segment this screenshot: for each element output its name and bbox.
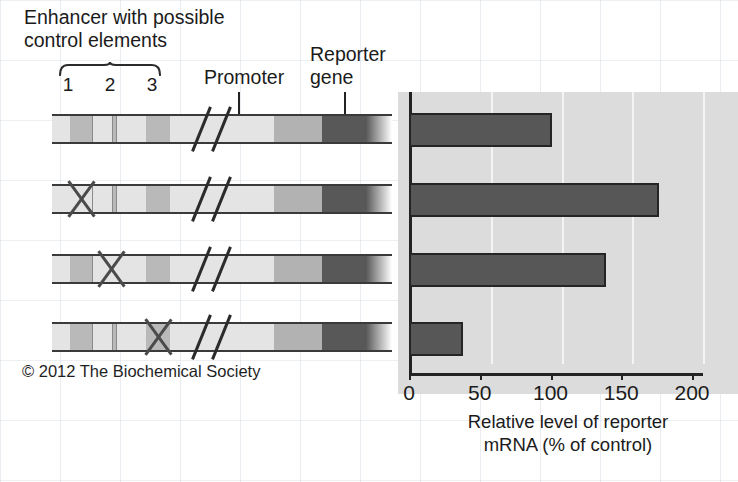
dna-spacer-upstream bbox=[242, 256, 274, 282]
element-separator bbox=[116, 186, 117, 212]
control-element-3-box bbox=[146, 256, 170, 282]
reporter-gene-box bbox=[322, 116, 392, 142]
gridline-100 bbox=[562, 92, 564, 364]
promoter-label: Promoter bbox=[204, 66, 284, 89]
dna-spacer-upstream bbox=[242, 324, 274, 350]
control-element-3-box bbox=[146, 116, 170, 142]
bar-2 bbox=[409, 253, 606, 287]
enhancer-title-label: Enhancer with possible control elements bbox=[24, 6, 225, 52]
control-element-numbers: 1 2 3 bbox=[58, 74, 162, 96]
dna-spacer bbox=[92, 324, 112, 350]
construct-row-intact-control bbox=[52, 114, 392, 144]
x-tick-label-200: 200 bbox=[674, 381, 709, 405]
reporter-gene-label: Reporter gene bbox=[310, 43, 386, 89]
promoter-box bbox=[274, 186, 322, 212]
control-element-1-box bbox=[70, 116, 92, 142]
deletion-x-icon bbox=[94, 247, 128, 291]
reporter-gene-box bbox=[322, 186, 392, 212]
bar-0 bbox=[409, 113, 552, 147]
control-element-3-box bbox=[146, 186, 170, 212]
gridline-200 bbox=[703, 92, 705, 364]
control-element-1-box bbox=[70, 324, 92, 350]
x-tick-150 bbox=[621, 373, 623, 380]
element-separator bbox=[116, 116, 117, 142]
dna-spacer-left bbox=[52, 324, 70, 350]
x-tick-50 bbox=[480, 373, 482, 380]
construct-row-element-2-deleted bbox=[52, 254, 392, 284]
bar-3 bbox=[409, 322, 463, 356]
gridline-150 bbox=[632, 92, 634, 364]
promoter-box bbox=[274, 116, 322, 142]
element-separator bbox=[116, 324, 117, 350]
element-separator bbox=[92, 256, 93, 282]
x-tick-200 bbox=[692, 373, 694, 380]
control-element-1-box bbox=[70, 256, 92, 282]
dna-spacer-left bbox=[52, 256, 70, 282]
control-element-2-box bbox=[116, 116, 146, 142]
x-tick-label-0: 0 bbox=[403, 381, 415, 405]
reporter-gene-box bbox=[322, 256, 392, 282]
deletion-x-icon bbox=[141, 315, 175, 359]
copyright-notice: © 2012 The Biochemical Society bbox=[22, 362, 260, 381]
element-number-2: 2 bbox=[100, 74, 120, 96]
x-tick-label-150: 150 bbox=[604, 381, 639, 405]
deletion-x-icon bbox=[64, 177, 98, 221]
x-tick-label-50: 50 bbox=[468, 381, 491, 405]
dna-spacer bbox=[92, 116, 112, 142]
element-separator bbox=[112, 116, 113, 142]
dna-spacer-left bbox=[52, 116, 70, 142]
element-separator bbox=[112, 186, 113, 212]
x-tick-label-100: 100 bbox=[533, 381, 568, 405]
construct-row-element-1-deleted bbox=[52, 184, 392, 214]
element-separator bbox=[92, 324, 93, 350]
element-number-3: 3 bbox=[142, 74, 162, 96]
element-separator bbox=[112, 324, 113, 350]
construct-diagram-panel: Enhancer with possible control elements … bbox=[0, 0, 398, 482]
x-axis-line bbox=[409, 373, 703, 376]
construct-row-element-3-deleted bbox=[52, 322, 392, 352]
promoter-box bbox=[274, 256, 322, 282]
element-separator bbox=[92, 116, 93, 142]
promoter-box bbox=[274, 324, 322, 350]
x-tick-100 bbox=[551, 373, 553, 380]
control-element-2-box bbox=[116, 186, 146, 212]
x-tick-0 bbox=[409, 373, 411, 380]
bar-1 bbox=[409, 183, 659, 217]
dna-spacer-upstream bbox=[242, 186, 274, 212]
element-number-1: 1 bbox=[58, 74, 78, 96]
dna-spacer-upstream bbox=[242, 116, 274, 142]
x-axis-title: Relative level of reporter mRNA (% of co… bbox=[398, 410, 738, 456]
reporter-gene-box bbox=[322, 324, 392, 350]
